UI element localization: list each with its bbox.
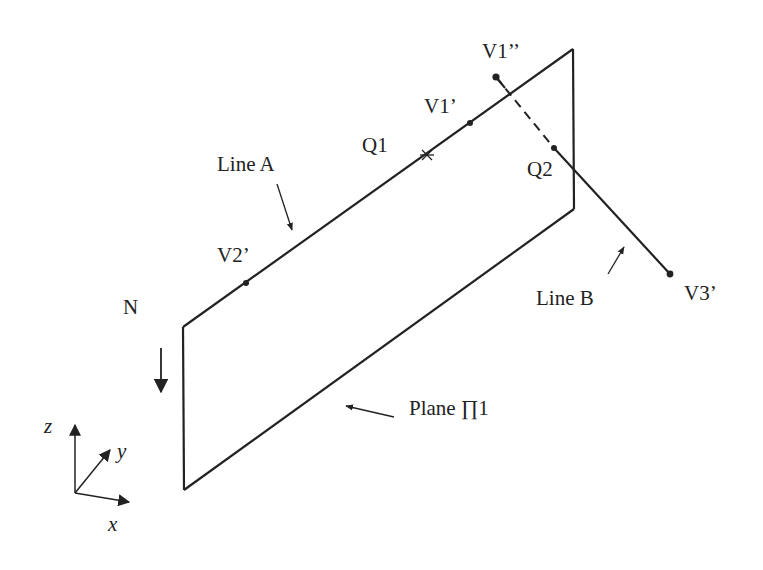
label-line-a: Line A: [217, 154, 275, 175]
point-v1-double-prime: [492, 73, 499, 80]
label-q2: Q2: [527, 159, 553, 180]
point-v1-prime: [467, 120, 473, 126]
label-v1-prime: V1’: [424, 96, 457, 117]
label-v3-prime: V3’: [684, 283, 717, 304]
label-x-axis: x: [108, 514, 117, 535]
line-a: [183, 49, 573, 327]
label-y-axis: y: [117, 441, 126, 462]
point-v2-prime: [243, 280, 249, 286]
label-z-axis: z: [44, 416, 52, 437]
line-b-pointer-arrow: [608, 247, 624, 274]
label-line-b: Line B: [536, 288, 594, 309]
coordinate-axes: [75, 425, 129, 502]
diagram-canvas: [0, 0, 763, 570]
x-axis-arrow-icon: [75, 493, 129, 502]
point-v3-prime: [667, 271, 674, 278]
plane-pointer-arrow: [346, 406, 394, 417]
point-q2: [551, 145, 557, 151]
label-v2-prime: V2’: [217, 245, 250, 266]
line-a-pointer-arrow: [277, 184, 292, 230]
label-plane: Plane ∏1: [409, 398, 489, 419]
label-normal-n: N: [123, 297, 138, 318]
plane-outline: [183, 49, 574, 490]
label-v1-double-prime: V1’’: [482, 41, 520, 62]
y-axis-arrow-icon: [75, 450, 110, 493]
label-q1: Q1: [362, 135, 388, 156]
point-q1-star-icon: [420, 150, 434, 160]
